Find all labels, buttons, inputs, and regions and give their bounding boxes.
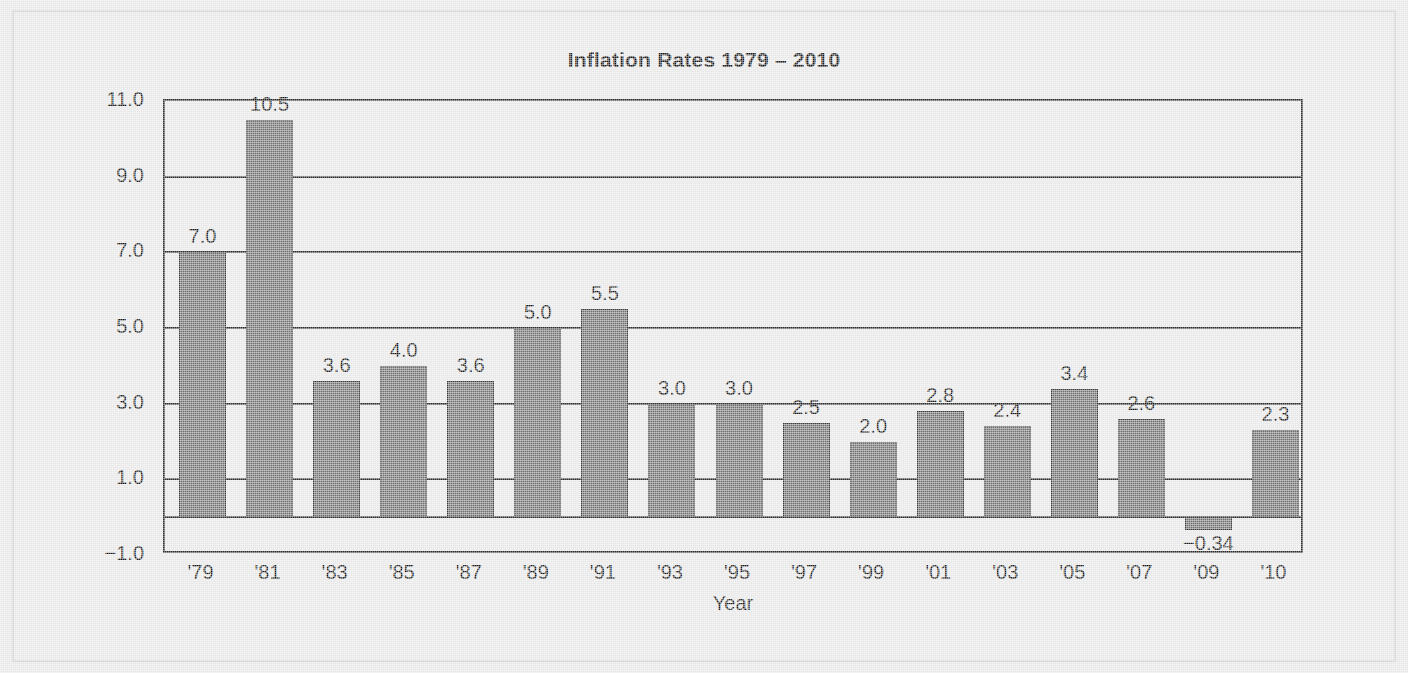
x-tick-label: '81 [255,561,281,584]
x-tick-label: '87 [456,561,482,584]
x-tick-label: '99 [858,561,884,584]
x-tick-label: '93 [657,561,683,584]
bar-value-label: 10.5 [250,93,289,116]
bar-value-label: 5.5 [591,282,619,305]
y-tick-label: 7.0 [116,239,144,262]
bar [716,404,763,518]
x-tick-label: '07 [1126,561,1152,584]
bar [1118,419,1165,517]
bar [648,404,695,518]
x-tick-label: '83 [322,561,348,584]
bar-series: 7.010.53.64.03.65.05.53.03.02.52.02.82.4… [165,101,1301,551]
plot-area: 7.010.53.64.03.65.05.53.03.02.52.02.82.4… [163,99,1303,553]
y-tick-label: 1.0 [116,466,144,489]
bar [581,309,628,517]
bar [1252,430,1299,517]
bar [313,381,360,517]
x-tick-label: '09 [1193,561,1219,584]
bar [1051,389,1098,518]
bar [984,426,1031,517]
bar-value-label: 3.0 [725,377,753,400]
chart-figure: Inflation Rates 1979 – 2010 11.09.07.05.… [0,0,1408,673]
y-tick-label: −1.0 [105,542,144,565]
bar-value-label: 3.4 [1060,362,1088,385]
y-tick-label: 5.0 [116,315,144,338]
y-tick-label: 9.0 [116,163,144,186]
x-axis-title: Year [163,592,1303,615]
bar-value-label: 2.8 [926,384,954,407]
bar [783,423,830,518]
bar-value-label: 3.0 [658,377,686,400]
x-tick-label: '10 [1260,561,1286,584]
x-tick-label: '89 [523,561,549,584]
bar [917,411,964,517]
x-tick-label: '01 [925,561,951,584]
bar [380,366,427,517]
bar-value-label: 2.5 [792,396,820,419]
bar-value-label: −0.34 [1183,532,1234,555]
x-tick-label: '03 [992,561,1018,584]
bar-value-label: 5.0 [524,301,552,324]
x-axis-tick-labels: '79'81'83'85'87'89'91'93'95'97'99'01'03'… [163,561,1303,591]
chart-title: Inflation Rates 1979 – 2010 [0,48,1408,72]
bar [246,120,293,517]
bar [850,442,897,518]
bar [1185,517,1232,530]
x-tick-label: '79 [187,561,213,584]
x-tick-label: '05 [1059,561,1085,584]
bar-value-label: 2.4 [993,399,1021,422]
x-tick-label: '97 [791,561,817,584]
bar-value-label: 2.3 [1262,403,1290,426]
bar-value-label: 2.0 [859,415,887,438]
y-axis-tick-labels: 11.09.07.05.03.01.0−1.0 [0,99,152,553]
x-tick-label: '91 [590,561,616,584]
bar-value-label: 4.0 [390,339,418,362]
bar-value-label: 3.6 [323,354,351,377]
bar-value-label: 2.6 [1127,392,1155,415]
x-tick-label: '95 [724,561,750,584]
bar-value-label: 7.0 [189,225,217,248]
bar [447,381,494,517]
bar [514,328,561,517]
bar [179,252,226,517]
y-tick-label: 11.0 [107,88,144,111]
bar-value-label: 3.6 [457,354,485,377]
y-tick-label: 3.0 [116,390,144,413]
x-tick-label: '85 [389,561,415,584]
